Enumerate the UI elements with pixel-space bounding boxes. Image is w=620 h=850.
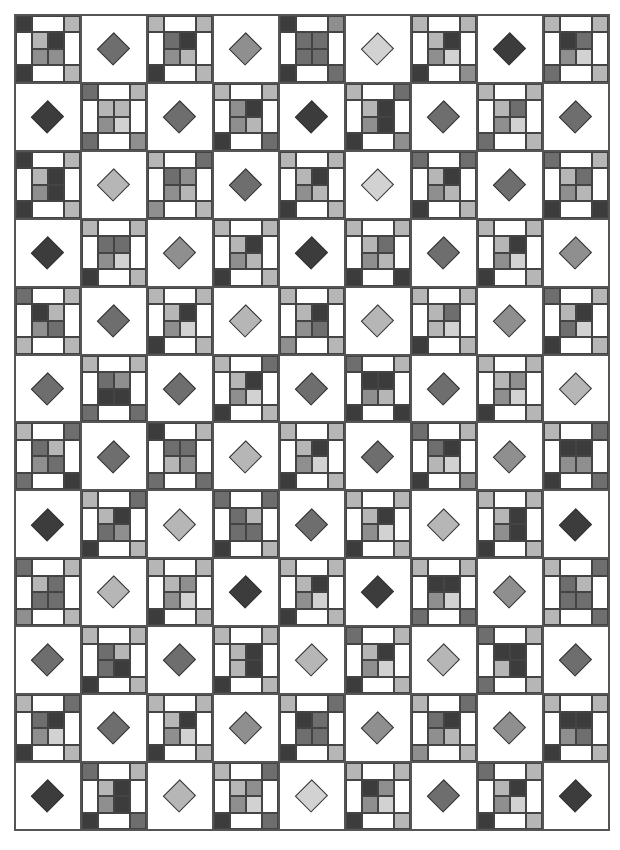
patch-square [246, 100, 262, 116]
patch-square [164, 712, 180, 728]
patch-square [328, 65, 344, 81]
patch-square [346, 133, 362, 149]
patch-sashing [592, 304, 608, 337]
patch-square [16, 201, 32, 217]
patch-square [428, 576, 444, 592]
patch-square [592, 337, 608, 353]
patch-sashing [460, 712, 476, 745]
diamond-shape [493, 168, 526, 201]
patch-square [346, 269, 362, 285]
patch-sashing [98, 763, 130, 779]
patch-sashing [230, 269, 262, 285]
diamond-block [411, 355, 477, 423]
patch-sashing [560, 288, 592, 304]
patch-square [230, 100, 246, 116]
nine-patch-block [15, 287, 81, 355]
patch-square [64, 337, 80, 353]
patch-square [180, 456, 196, 472]
patch-sashing [592, 712, 608, 745]
patch-square [262, 491, 278, 507]
patch-sashing [362, 491, 394, 507]
patch-square [378, 508, 394, 524]
patch-sashing [428, 152, 460, 168]
patch-sashing [394, 508, 410, 541]
patch-square [576, 592, 592, 608]
patch-sashing [32, 559, 64, 575]
patch-square [230, 253, 246, 269]
patch-sashing [280, 712, 296, 745]
patch-sashing [394, 372, 410, 405]
patch-square [560, 592, 576, 608]
diamond-shape [229, 168, 262, 201]
patch-square [114, 508, 130, 524]
patch-square [196, 695, 212, 711]
nine-patch-block [411, 287, 477, 355]
patch-square [394, 677, 410, 693]
patch-square [164, 321, 180, 337]
diamond-block [213, 15, 279, 83]
nine-patch-block [543, 558, 609, 626]
diamond-shape [493, 440, 526, 473]
patch-sashing [98, 677, 130, 693]
patch-sashing [460, 304, 476, 337]
diamond-block [411, 83, 477, 151]
nine-patch-block [345, 355, 411, 423]
patch-square [460, 152, 476, 168]
patch-square [576, 321, 592, 337]
patch-square [16, 337, 32, 353]
patch-sashing [478, 100, 494, 133]
patch-square [412, 695, 428, 711]
patch-square [296, 32, 312, 48]
patch-square [560, 728, 576, 744]
patch-square [510, 236, 526, 252]
patch-sashing [544, 712, 560, 745]
patch-square [16, 609, 32, 625]
patch-square [362, 780, 378, 796]
nine-patch-block [543, 287, 609, 355]
diamond-block [81, 287, 147, 355]
patch-square [346, 677, 362, 693]
nine-patch-block [279, 558, 345, 626]
patch-square [16, 473, 32, 489]
diamond-block [279, 355, 345, 423]
patch-square [510, 660, 526, 676]
patch-sashing [280, 32, 296, 65]
patch-square [510, 780, 526, 796]
patch-square [312, 440, 328, 456]
patch-square [494, 508, 510, 524]
patch-sashing [494, 133, 526, 149]
patch-square [428, 456, 444, 472]
patch-square [560, 456, 576, 472]
patch-square [576, 32, 592, 48]
patch-square [32, 49, 48, 65]
patch-square [560, 321, 576, 337]
patch-square [48, 728, 64, 744]
patch-square [48, 456, 64, 472]
patch-square [576, 168, 592, 184]
diamond-shape [295, 780, 328, 813]
patch-square [246, 780, 262, 796]
patch-sashing [460, 440, 476, 473]
patch-square [196, 337, 212, 353]
patch-square [526, 813, 542, 829]
patch-square [478, 627, 494, 643]
patch-square [16, 288, 32, 304]
diamond-shape [295, 236, 328, 269]
patch-square [64, 695, 80, 711]
diamond-shape [295, 100, 328, 133]
nine-patch-block [147, 694, 213, 762]
patch-square [98, 236, 114, 252]
diamond-block [15, 762, 81, 830]
patch-square [48, 304, 64, 320]
patch-sashing [164, 745, 196, 761]
patch-sashing [130, 644, 146, 677]
patch-square [428, 304, 444, 320]
patch-square [64, 201, 80, 217]
patch-sashing [164, 16, 196, 32]
patch-sashing [98, 133, 130, 149]
patch-square [64, 473, 80, 489]
patch-square [362, 796, 378, 812]
patch-square [130, 813, 146, 829]
nine-patch-block [345, 762, 411, 830]
patch-square [394, 541, 410, 557]
